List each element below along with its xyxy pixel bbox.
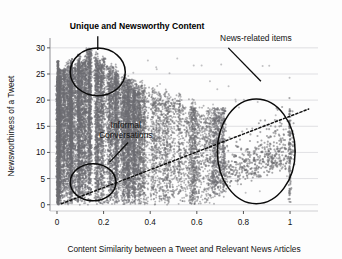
data-point: [139, 161, 141, 163]
data-point: [80, 99, 82, 101]
data-point: [179, 154, 181, 156]
data-point: [165, 125, 167, 127]
data-point: [166, 159, 168, 161]
x-tick-label: 0.4: [145, 218, 157, 227]
data-point: [90, 90, 92, 92]
data-point: [60, 142, 62, 144]
data-point: [101, 113, 103, 115]
data-point: [124, 100, 126, 102]
data-point: [138, 153, 140, 155]
data-point: [167, 156, 169, 158]
data-point: [164, 95, 166, 97]
data-point: [80, 80, 82, 82]
data-point: [159, 161, 161, 163]
data-point: [108, 110, 110, 112]
data-point: [207, 110, 209, 112]
data-point: [79, 103, 81, 105]
data-point: [291, 110, 293, 112]
data-point: [60, 99, 62, 101]
data-point: [204, 168, 206, 170]
data-point: [148, 92, 150, 94]
data-point: [212, 172, 214, 174]
data-point: [91, 160, 93, 162]
data-point: [198, 163, 200, 165]
data-point: [246, 128, 248, 130]
data-point: [222, 162, 224, 164]
data-point: [64, 134, 66, 136]
data-point: [57, 82, 59, 84]
data-point: [248, 162, 250, 164]
data-point: [173, 145, 175, 147]
data-point: [153, 143, 155, 145]
data-point: [104, 103, 106, 105]
data-point: [126, 89, 128, 91]
data-point: [155, 114, 157, 116]
data-point: [134, 171, 136, 173]
data-point: [88, 111, 90, 113]
data-point: [250, 168, 252, 170]
data-point: [262, 65, 264, 67]
data-point: [206, 198, 208, 200]
data-point: [275, 165, 277, 167]
data-point: [98, 197, 100, 199]
data-point: [154, 183, 156, 185]
data-point: [186, 169, 188, 171]
data-point: [225, 127, 227, 129]
data-point: [231, 160, 233, 162]
data-point: [59, 92, 61, 94]
data-point: [86, 73, 88, 75]
data-point: [192, 103, 194, 105]
data-point: [89, 58, 91, 60]
data-point: [235, 145, 237, 147]
data-point: [185, 136, 187, 138]
data-point: [68, 69, 70, 71]
data-point: [121, 182, 123, 184]
data-point: [196, 173, 198, 175]
data-point: [162, 114, 164, 116]
data-point: [85, 184, 87, 186]
data-point: [190, 184, 192, 186]
data-point: [178, 150, 180, 152]
data-point: [115, 110, 117, 112]
data-point: [212, 182, 214, 184]
data-point: [249, 140, 251, 142]
data-point: [98, 180, 100, 182]
data-point: [142, 167, 144, 169]
data-point: [67, 151, 69, 153]
data-point: [154, 88, 156, 90]
data-point: [124, 203, 126, 205]
data-point: [94, 92, 96, 94]
data-point: [70, 97, 72, 99]
data-point: [179, 103, 181, 105]
data-point: [213, 203, 215, 205]
data-point: [70, 108, 72, 110]
data-point: [160, 141, 162, 143]
data-point: [204, 159, 206, 161]
data-point: [84, 139, 86, 141]
data-point: [181, 135, 183, 137]
data-point: [275, 157, 277, 159]
data-point: [88, 179, 90, 181]
data-point: [161, 135, 163, 137]
data-point: [108, 155, 110, 157]
data-point: [133, 96, 135, 98]
data-point: [195, 167, 197, 169]
data-point: [200, 163, 202, 165]
data-point: [145, 127, 147, 129]
data-point: [139, 178, 141, 180]
data-point: [151, 97, 153, 99]
data-point: [94, 178, 96, 180]
data-point: [80, 84, 82, 86]
data-point: [61, 154, 63, 156]
data-point: [118, 105, 120, 107]
data-point: [141, 151, 143, 153]
data-point: [79, 184, 81, 186]
data-point: [222, 134, 224, 136]
data-point: [97, 102, 99, 104]
data-point: [141, 120, 143, 122]
data-point: [273, 135, 275, 137]
data-point: [260, 151, 262, 153]
data-point: [61, 113, 63, 115]
data-point: [251, 172, 253, 174]
data-point: [208, 184, 210, 186]
